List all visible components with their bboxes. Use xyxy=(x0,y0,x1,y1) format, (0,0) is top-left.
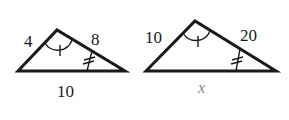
small-triangle-outline xyxy=(18,30,125,71)
side-label-left: 4 xyxy=(24,32,33,51)
base-label: 10 xyxy=(57,82,74,101)
large-triangle: 10 20 x xyxy=(145,21,276,96)
side-label-right: 20 xyxy=(240,26,257,45)
small-triangle: 4 8 10 xyxy=(18,30,125,101)
apex-angle-arc-icon xyxy=(183,31,210,41)
side-label-left: 10 xyxy=(145,28,162,47)
angle-double-tick-icon xyxy=(87,51,92,71)
angle-double-tick-icon xyxy=(236,49,240,71)
side-label-right: 8 xyxy=(91,30,100,49)
similar-triangles-diagram: 4 8 10 10 20 x xyxy=(0,0,289,120)
base-label-unknown: x xyxy=(197,79,205,96)
apex-angle-arc-icon xyxy=(45,40,72,50)
double-tick-2-icon xyxy=(231,61,242,64)
